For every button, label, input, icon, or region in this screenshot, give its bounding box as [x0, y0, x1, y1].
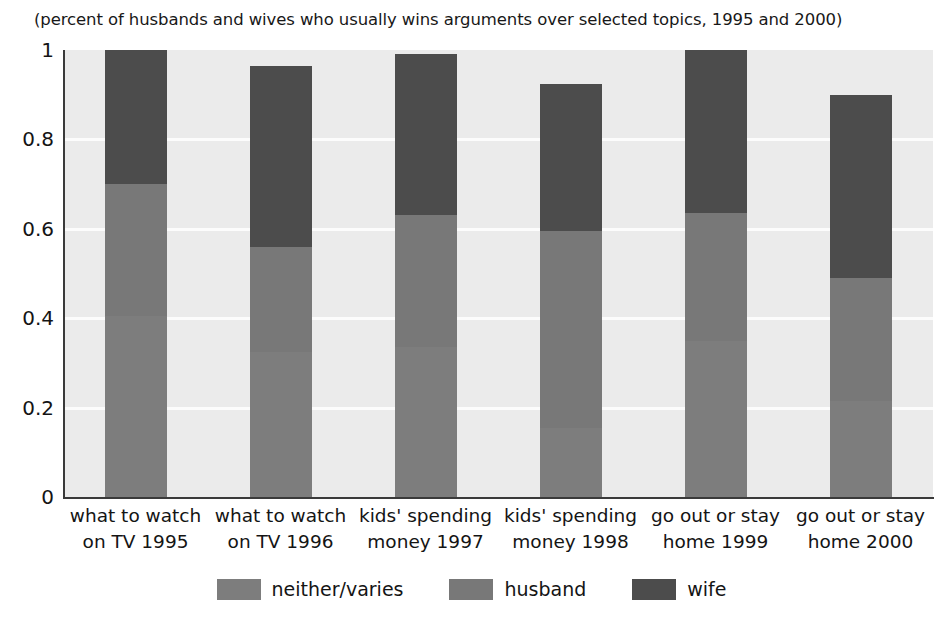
bar-segment-neither-varies[interactable]	[395, 347, 457, 497]
bar-segment-wife[interactable]	[105, 50, 167, 184]
bar-segment-husband[interactable]	[685, 212, 747, 340]
y-axis-labels: 00.20.40.60.81	[0, 50, 54, 497]
legend-label: wife	[687, 578, 726, 600]
y-axis-tick-label: 0.6	[22, 217, 54, 241]
bar-segment-neither-varies[interactable]	[105, 316, 167, 497]
x-axis-tick-line: what to watch	[208, 503, 353, 529]
x-axis-tick-label: kids' spendingmoney 1998	[498, 503, 643, 555]
chart-title: (percent of husbands and wives who usual…	[34, 10, 842, 29]
x-axis-tick-line: kids' spending	[353, 503, 498, 529]
x-axis-tick-line: on TV 1996	[208, 529, 353, 555]
legend-swatch-icon	[217, 579, 261, 600]
bar-segment-wife[interactable]	[540, 84, 602, 232]
bar-segment-neither-varies[interactable]	[540, 428, 602, 497]
legend-item[interactable]: wife	[632, 578, 726, 600]
plot-area	[63, 50, 933, 497]
bar-segment-neither-varies[interactable]	[250, 352, 312, 497]
x-axis-tick-line: what to watch	[63, 503, 208, 529]
x-axis-tick-line: money 1997	[353, 529, 498, 555]
x-axis-tick-line: go out or stay	[788, 503, 933, 529]
x-axis-tick-label: go out or stayhome 1999	[643, 503, 788, 555]
bar-group[interactable]	[498, 50, 643, 497]
legend-item[interactable]: husband	[449, 578, 586, 600]
y-axis-tick-label: 1	[41, 38, 54, 62]
x-axis-tick-line: money 1998	[498, 529, 643, 555]
bar-group[interactable]	[353, 50, 498, 497]
bar-group[interactable]	[643, 50, 788, 497]
chart-legend: neither/varieshusbandwife	[0, 578, 943, 600]
bar-segment-husband[interactable]	[105, 183, 167, 316]
bar-segment-wife[interactable]	[685, 50, 747, 213]
x-axis-tick-line: kids' spending	[498, 503, 643, 529]
x-axis-tick-line: on TV 1995	[63, 529, 208, 555]
y-axis-line	[63, 50, 65, 499]
y-axis-tick-label: 0	[41, 485, 54, 509]
x-axis-tick-label: what to watchon TV 1995	[63, 503, 208, 555]
x-axis-tick-label: go out or stayhome 2000	[788, 503, 933, 555]
bar-segment-husband[interactable]	[250, 246, 312, 352]
bar-group[interactable]	[208, 50, 353, 497]
bar-segment-husband[interactable]	[830, 277, 892, 401]
legend-label: husband	[504, 578, 586, 600]
legend-swatch-icon	[449, 579, 493, 600]
y-axis-tick-label: 0.4	[22, 306, 54, 330]
legend-label: neither/varies	[272, 578, 404, 600]
legend-item[interactable]: neither/varies	[217, 578, 404, 600]
bar-group[interactable]	[63, 50, 208, 497]
y-axis-tick-label: 0.2	[22, 396, 54, 420]
bar-segment-wife[interactable]	[395, 54, 457, 215]
x-axis-tick-label: kids' spendingmoney 1997	[353, 503, 498, 555]
bar-segment-neither-varies[interactable]	[685, 341, 747, 497]
x-axis-tick-label: what to watchon TV 1996	[208, 503, 353, 555]
bar-segment-wife[interactable]	[250, 66, 312, 247]
bar-segment-husband[interactable]	[540, 230, 602, 428]
x-axis-line	[63, 497, 934, 499]
bar-segment-neither-varies[interactable]	[830, 401, 892, 497]
bar-group[interactable]	[788, 50, 933, 497]
legend-swatch-icon	[632, 579, 676, 600]
x-axis-tick-line: home 2000	[788, 529, 933, 555]
bar-segment-husband[interactable]	[395, 214, 457, 347]
x-axis-tick-line: go out or stay	[643, 503, 788, 529]
bar-segment-wife[interactable]	[830, 95, 892, 278]
x-axis-labels: what to watchon TV 1995what to watchon T…	[63, 503, 933, 561]
y-axis-tick-label: 0.8	[22, 127, 54, 151]
x-axis-tick-line: home 1999	[643, 529, 788, 555]
